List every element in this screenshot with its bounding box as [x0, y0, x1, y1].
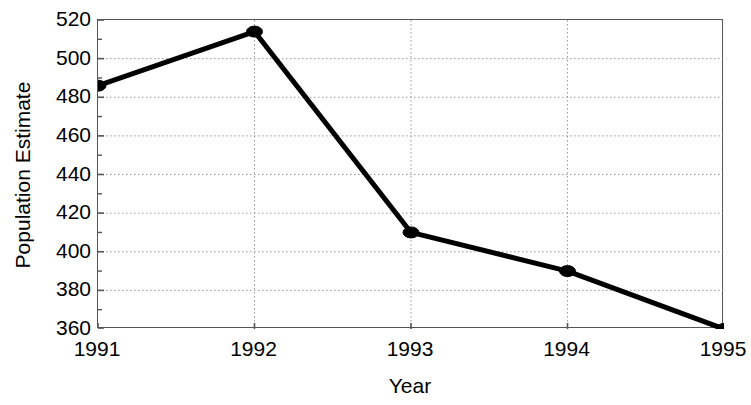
x-axis-tick-label: 1993 [350, 338, 470, 360]
x-axis-tick-label: 1991 [37, 338, 157, 360]
x-axis-tick-label: 1994 [507, 338, 627, 360]
x-axis-tick-label: 1992 [194, 338, 314, 360]
x-axis-tick-label: 1995 [663, 338, 751, 360]
x-axis-title: Year [97, 374, 723, 398]
